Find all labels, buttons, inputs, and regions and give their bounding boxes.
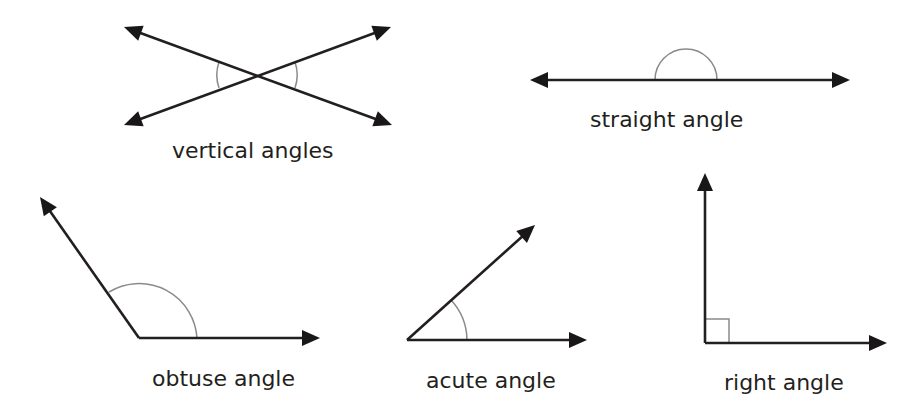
vertical-angles-figure <box>124 26 392 127</box>
angle-arc-marker <box>451 300 467 340</box>
angle-arc-marker <box>295 62 297 88</box>
arrowhead-icon <box>372 111 392 126</box>
arrowhead-icon <box>302 330 320 346</box>
right-angle-square-marker <box>705 319 729 343</box>
angle-types-diagram <box>0 0 922 416</box>
arrowhead-icon <box>124 26 144 41</box>
arrowhead-icon <box>569 332 587 348</box>
arrowhead-icon <box>832 72 850 88</box>
right-angle-figure <box>697 173 887 351</box>
acute-angle-label: acute angle <box>426 370 556 392</box>
vertical-angles-label: vertical angles <box>172 140 334 162</box>
straight-angle-label: straight angle <box>590 109 743 131</box>
arrowhead-icon <box>697 173 713 191</box>
angle-arc-marker <box>109 284 197 338</box>
acute-angle-figure <box>407 225 587 348</box>
arrowhead-icon <box>124 111 144 126</box>
right-angle-label: right angle <box>724 372 844 394</box>
arrowhead-icon <box>869 335 887 351</box>
arrowhead-icon <box>371 26 391 41</box>
arrowhead-icon <box>40 197 57 216</box>
arrowhead-icon <box>530 72 548 88</box>
obtuse-angle-figure <box>40 197 320 346</box>
ray-line <box>49 210 139 338</box>
angle-arc-marker <box>655 49 717 80</box>
obtuse-angle-label: obtuse angle <box>152 368 295 390</box>
angle-arc-marker <box>217 62 219 88</box>
straight-angle-figure <box>530 49 850 88</box>
